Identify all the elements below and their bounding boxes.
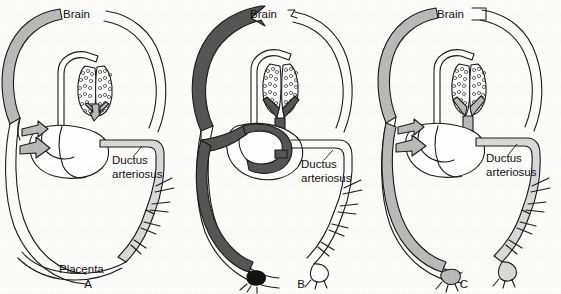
brain-loop-left-vessel-c <box>378 8 438 123</box>
umbilical-stump-right-c <box>498 262 516 281</box>
umbilical-clamp-b <box>247 271 265 285</box>
brain-loop-right-inner-c <box>480 20 532 127</box>
brain-loop-right-vessel-a <box>106 11 166 132</box>
ductus-label-line2-a: arteriosus <box>112 168 163 180</box>
umbilical-stump-left-c <box>441 269 461 284</box>
panel-letter-c: C <box>460 278 468 290</box>
brain-loop-left-vessel-a <box>2 9 62 124</box>
brain-label-c: Brain <box>437 8 464 20</box>
umbilical-branches-b <box>318 180 362 256</box>
ductus-label-line1-b: Ductus <box>301 158 337 170</box>
descending-aorta-a <box>118 210 154 262</box>
ductus-label-line2-c: arteriosus <box>486 166 537 178</box>
descending-aorta-inner-b <box>307 212 334 258</box>
ductus-label-line1-a: Ductus <box>112 154 148 166</box>
placenta-label-a: Placenta <box>59 263 104 275</box>
panel-a-fetal-circulation: Brain Ductus arteriosus Placenta A <box>0 0 187 294</box>
brain-label-a: Brain <box>63 8 90 20</box>
descending-aorta-b <box>314 216 342 264</box>
umbilical-stump-right-b <box>310 264 328 282</box>
panel-letter-a: A <box>84 278 92 290</box>
brain-loop-right-vessel-b <box>295 12 352 132</box>
lungs-c <box>452 64 486 115</box>
brain-label-b: Brain <box>250 8 277 20</box>
descending-aorta-c <box>494 210 530 262</box>
brain-loop-right-vessel-c <box>482 10 542 131</box>
dark-ductus-b <box>275 150 287 158</box>
fetal-circulation-figure: Brain Ductus arteriosus Placenta A <box>0 0 561 294</box>
brain-bracket-b <box>288 10 297 18</box>
brain-loop-right-inner-b <box>293 22 343 128</box>
panel-letter-b: B <box>297 278 305 290</box>
ductus-label-line1-c: Ductus <box>486 152 522 164</box>
panel-c-neonatal-circulation: Brain Ductus arteriosus C <box>374 0 561 294</box>
ductus-label-line2-b: arteriosus <box>301 172 352 184</box>
panel-b-transitional-circulation: Brain Ductus arteriosus B <box>187 0 374 294</box>
